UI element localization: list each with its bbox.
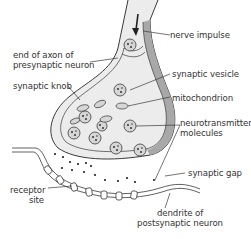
label-nerve-impulse: nerve impulse: [170, 30, 230, 40]
label-dendrite-line2: postsynaptic neuron: [130, 218, 230, 228]
synapse-diagram: nerve impulse end of axon of presynaptic…: [0, 0, 251, 239]
label-synaptic-knob: synaptic knob: [13, 81, 72, 91]
label-synaptic-vesicle: synaptic vesicle: [172, 69, 239, 79]
receptor-sites: [43, 165, 137, 200]
label-synaptic-gap: synaptic gap: [188, 168, 242, 178]
label-receptor-line2: site: [10, 195, 44, 205]
label-axon-end-line2: presynaptic neuron: [13, 60, 94, 70]
label-receptor-line1: receptor: [10, 185, 44, 195]
label-axon-end-line1: end of axon of: [13, 50, 73, 60]
label-neurotransmitter-line2: molecules: [180, 128, 223, 138]
label-neurotransmitter-line1: neurotransmitter: [180, 118, 251, 128]
label-mitochondrion: mitochondrion: [172, 93, 233, 103]
label-dendrite-line1: dendrite of: [130, 208, 230, 218]
